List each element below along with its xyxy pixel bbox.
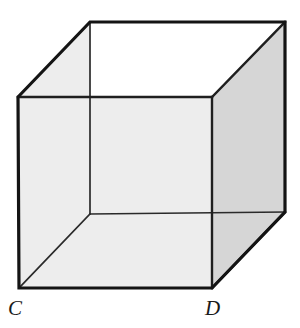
cube-drawing	[0, 0, 300, 328]
cube-figure: C D	[0, 0, 300, 328]
vertex-label-c: C	[8, 298, 22, 319]
vertex-label-d: D	[205, 298, 220, 319]
